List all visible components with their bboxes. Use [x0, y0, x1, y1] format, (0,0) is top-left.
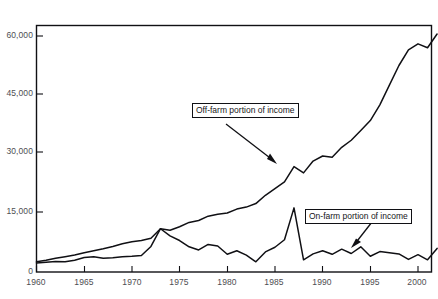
- chart-plot-area: [0, 0, 438, 299]
- x-axis-ticks: [37, 266, 419, 272]
- plot-border: [37, 26, 432, 273]
- y-axis-ticks: [37, 36, 44, 212]
- annotation-label-on-farm: On-farm portion of income: [305, 209, 412, 224]
- series-line-off-farm: [37, 34, 438, 262]
- annotation-arrow-on-farm: [351, 222, 372, 248]
- figure-bottom-caption: [6, 288, 306, 299]
- chart-figure: 60,000 45,000 30,000 15,000 0 1960 1965 …: [0, 0, 438, 299]
- annotation-arrow-off-farm: [226, 124, 277, 164]
- annotation-label-off-farm: Off-farm portion of income: [192, 103, 299, 118]
